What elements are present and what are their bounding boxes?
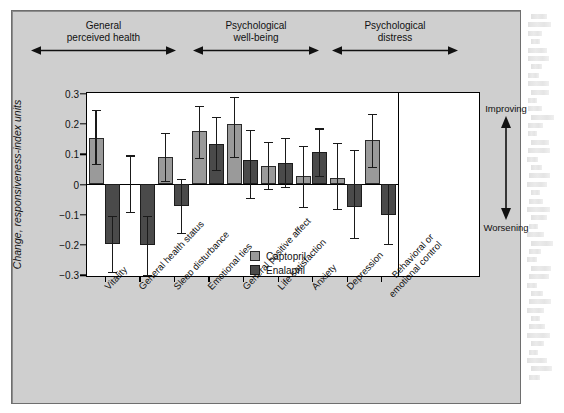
- error-bar-cap-top: [177, 179, 186, 180]
- direction-key-bottom-label: Worsening: [483, 222, 529, 233]
- error-bar-cap-bottom: [230, 157, 239, 158]
- scan-margin-line: [531, 39, 540, 44]
- y-axis-title: Change, responsiveness-index units: [11, 0, 27, 92]
- direction-key-arrow-icon: [483, 114, 529, 222]
- error-bar-captopril: [199, 106, 200, 158]
- scan-margin-line: [531, 165, 542, 170]
- scan-margin-line: [527, 232, 544, 237]
- scan-margin-line: [529, 173, 550, 178]
- scan-margin-line: [527, 283, 537, 288]
- error-bar-enalapril: [112, 216, 113, 272]
- error-bar-cap-top: [246, 130, 255, 131]
- error-bar-cap-top: [384, 184, 393, 185]
- scan-margin-line: [531, 64, 542, 69]
- scan-margin-line: [529, 350, 538, 355]
- scan-margin-line: [531, 316, 540, 321]
- legend-swatch-enalapril: [250, 265, 260, 275]
- y-axis-title-text: Change, responsiveness-index units: [11, 92, 23, 277]
- scan-margin-line: [531, 140, 549, 145]
- scan-margin-line: [528, 148, 550, 153]
- error-bar-cap-bottom: [384, 244, 393, 245]
- error-bar-cap-bottom: [368, 167, 377, 168]
- error-bar-captopril: [337, 143, 338, 209]
- error-bar-captopril: [303, 146, 304, 207]
- error-bar-enalapril: [354, 150, 355, 238]
- error-bar-cap-top: [264, 142, 273, 143]
- x-axis: VitalityGeneral health statusSleep distu…: [86, 277, 480, 377]
- error-bar-captopril: [234, 97, 235, 157]
- error-bar-enalapril: [285, 138, 286, 187]
- group-header-psychological-distress: Psychological distress: [332, 20, 458, 60]
- error-bar-enalapril: [181, 179, 182, 233]
- error-bar-cap-bottom: [315, 176, 324, 177]
- y-tick-label: 0.1: [65, 149, 86, 160]
- error-bar-cap-bottom: [212, 170, 221, 171]
- figure-panel: General perceived health Psychological w…: [11, 10, 521, 404]
- scan-margin-line: [531, 115, 554, 120]
- error-bar-enalapril: [147, 216, 148, 275]
- scan-margin-line: [528, 73, 539, 78]
- scan-margin-line: [529, 324, 545, 329]
- group-label-line1: Psychological: [193, 20, 319, 32]
- scan-margin-line: [528, 22, 551, 27]
- error-bar-enalapril: [216, 117, 217, 169]
- scan-margin-line: [528, 56, 549, 61]
- scan-margin-line: [531, 190, 540, 195]
- error-bar-cap-bottom: [299, 207, 308, 208]
- scan-margin-line: [531, 90, 549, 95]
- error-bar-captopril: [95, 110, 96, 164]
- error-bar-cap-top: [230, 97, 239, 98]
- error-bar-captopril: [165, 133, 166, 181]
- scan-margin-line: [528, 48, 547, 53]
- error-bar-cap-bottom: [246, 198, 255, 199]
- error-bar-cap-top: [126, 155, 135, 156]
- group-header-general-perceived-health: General perceived health: [31, 20, 176, 60]
- y-tick-label: −0.3: [59, 270, 86, 281]
- scan-margin-line: [529, 375, 540, 380]
- error-bar-cap-top: [143, 216, 152, 217]
- scan-margin-line: [531, 341, 544, 346]
- y-tick-label: −0.2: [59, 240, 86, 251]
- scan-margin-line: [529, 224, 538, 229]
- scan-margin-line: [527, 333, 550, 338]
- error-bar-cap-bottom: [195, 158, 204, 159]
- y-tick-label: 0.3: [65, 88, 86, 99]
- y-tick-label: 0.2: [65, 118, 86, 129]
- scan-margin-line: [528, 81, 549, 86]
- error-bar-cap-bottom: [92, 164, 101, 165]
- scan-margin-line: [531, 215, 547, 220]
- error-bar-captopril: [372, 114, 373, 168]
- error-bar-cap-top: [350, 150, 359, 151]
- scan-margin-line: [531, 366, 552, 371]
- group-range-arrow-icon: [31, 45, 176, 56]
- error-bar-cap-top: [299, 146, 308, 147]
- legend: Captopril Enalapril: [250, 250, 306, 278]
- error-bar-cap-bottom: [264, 189, 273, 190]
- error-bar-cap-top: [195, 106, 204, 107]
- scan-margin-line: [527, 182, 547, 187]
- direction-key: Improving Worsening: [483, 103, 529, 268]
- legend-item-enalapril: Enalapril: [250, 264, 306, 276]
- scan-margin-line: [527, 358, 547, 363]
- scan-margin-line: [528, 123, 543, 128]
- legend-label-captopril: Captopril: [266, 251, 306, 262]
- scan-margin-line: [528, 31, 542, 36]
- group-label-line1: General: [31, 20, 176, 32]
- group-range-arrow-icon: [332, 45, 458, 56]
- error-bar-captopril: [130, 155, 131, 211]
- scan-margin-line: [529, 299, 551, 304]
- error-bar-cap-bottom: [333, 209, 342, 210]
- scan-margin-line: [527, 257, 537, 262]
- error-bar-enalapril: [319, 128, 320, 176]
- scan-margin-line: [529, 249, 541, 254]
- y-tick-label: −0.1: [59, 209, 86, 220]
- legend-divider-line: [398, 93, 400, 276]
- group-label-line2: well-being: [193, 32, 319, 44]
- scan-margin-text: [525, 14, 564, 399]
- error-bar-cap-top: [108, 216, 117, 217]
- legend-label-enalapril: Enalapril: [266, 265, 305, 276]
- group-range-arrow-icon: [193, 45, 319, 56]
- y-tick-label: 0: [73, 179, 86, 190]
- error-bar-cap-top: [333, 143, 342, 144]
- error-bar-cap-top: [161, 133, 170, 134]
